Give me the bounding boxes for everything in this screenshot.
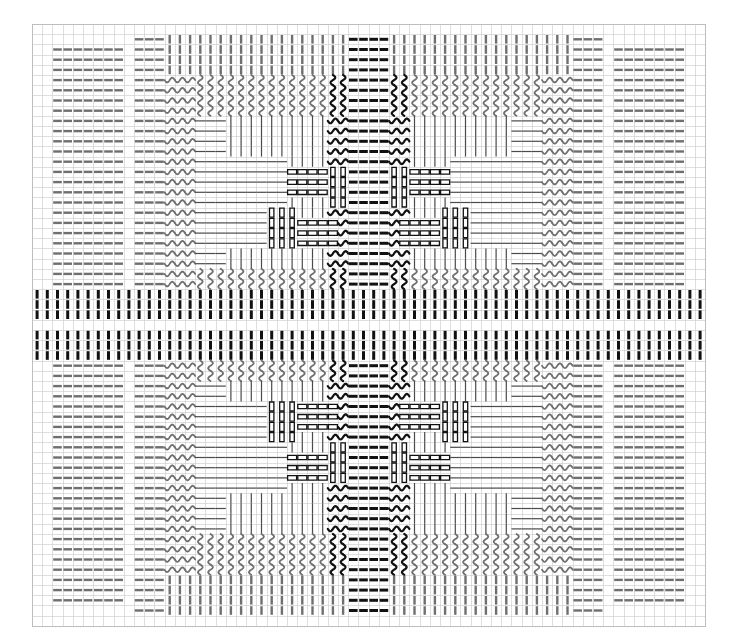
pattern-chart-stage bbox=[0, 0, 732, 640]
pattern-chart-canvas bbox=[0, 0, 732, 640]
